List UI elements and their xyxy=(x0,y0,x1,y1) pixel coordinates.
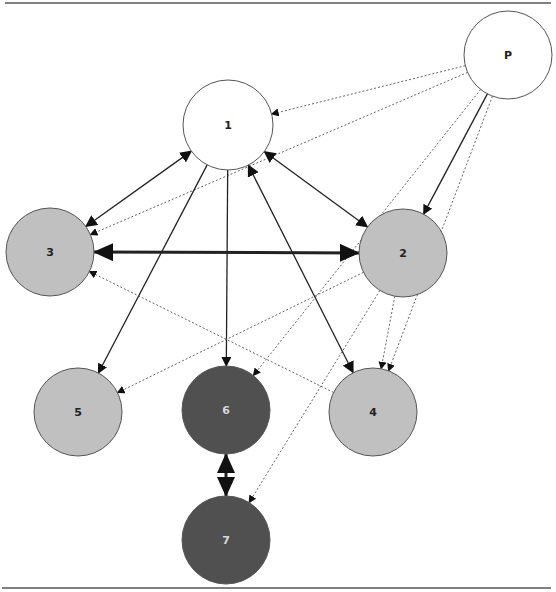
node-label-4: 4 xyxy=(369,406,377,419)
edge-P-to-2 xyxy=(424,94,488,214)
node-label-6: 6 xyxy=(222,404,230,417)
network-diagram: P1325647 xyxy=(0,0,556,592)
node-5[interactable]: 5 xyxy=(34,368,122,456)
node-label-1: 1 xyxy=(224,119,232,132)
node-label-5: 5 xyxy=(74,406,82,419)
edge-P-to-1 xyxy=(272,66,466,114)
node-label-3: 3 xyxy=(46,246,54,259)
node-4[interactable]: 4 xyxy=(329,368,417,456)
edge-2-to-4 xyxy=(381,296,395,369)
edge-1-to-5 xyxy=(98,165,207,373)
node-2[interactable]: 2 xyxy=(359,209,447,297)
edge-1-to-2 xyxy=(264,152,367,227)
nodes-layer: P1325647 xyxy=(6,11,552,584)
node-1[interactable]: 1 xyxy=(183,80,273,170)
node-6[interactable]: 6 xyxy=(182,366,270,454)
node-7[interactable]: 7 xyxy=(182,496,270,584)
edge-1-to-6 xyxy=(226,170,227,366)
node-3[interactable]: 3 xyxy=(6,208,94,296)
node-label-p: P xyxy=(504,49,512,62)
node-p[interactable]: P xyxy=(464,11,552,99)
node-label-2: 2 xyxy=(399,247,407,260)
edge-1-to-3 xyxy=(86,151,192,226)
node-label-7: 7 xyxy=(222,534,230,547)
